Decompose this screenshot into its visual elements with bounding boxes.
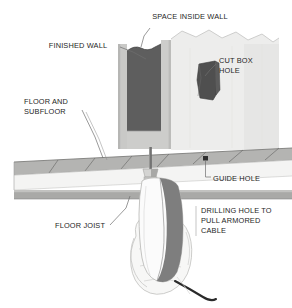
diagram-canvas: SPACE INSIDE WALL FINISHED WALL CUT BOX … — [0, 0, 292, 308]
label-floor-and-subfloor-line-1: FLOOR AND — [24, 97, 68, 106]
label-floor-and-subfloor: FLOOR AND SUBFLOOR — [24, 97, 68, 116]
wall-bottom-plate — [127, 131, 161, 149]
wall-cavity — [127, 44, 161, 131]
label-drilling-hole-line-2: PULL ARMORED — [201, 216, 260, 225]
label-drilling-hole-line-1: DRILLING HOLE TO — [201, 206, 272, 215]
label-floor-joist-line-1: FLOOR JOIST — [55, 221, 105, 230]
label-space-inside-wall-line-1: SPACE INSIDE WALL — [152, 12, 228, 21]
label-floor-joist: FLOOR JOIST — [55, 221, 105, 230]
label-drilling-hole-line-3: CABLE — [201, 226, 226, 235]
drill-bit — [149, 147, 152, 169]
label-space-inside-wall: SPACE INSIDE WALL — [152, 12, 228, 21]
illustration-figure: SPACE INSIDE WALL FINISHED WALL CUT BOX … — [0, 0, 292, 308]
finished-wall-surface — [171, 30, 279, 150]
label-guide-hole: GUIDE HOLE — [213, 174, 260, 183]
drill — [139, 178, 183, 282]
cut-box-hole — [197, 61, 220, 100]
wall-cross-section — [118, 40, 171, 149]
label-finished-wall: FINISHED WALL — [49, 41, 107, 50]
label-cut-box-hole-line-1: CUT BOX — [219, 56, 253, 65]
label-guide-hole-line-1: GUIDE HOLE — [213, 174, 260, 183]
label-finished-wall-line-1: FINISHED WALL — [49, 41, 107, 50]
label-cut-box-hole-line-2: HOLE — [219, 66, 240, 75]
label-floor-and-subfloor-line-2: SUBFLOOR — [24, 107, 66, 116]
